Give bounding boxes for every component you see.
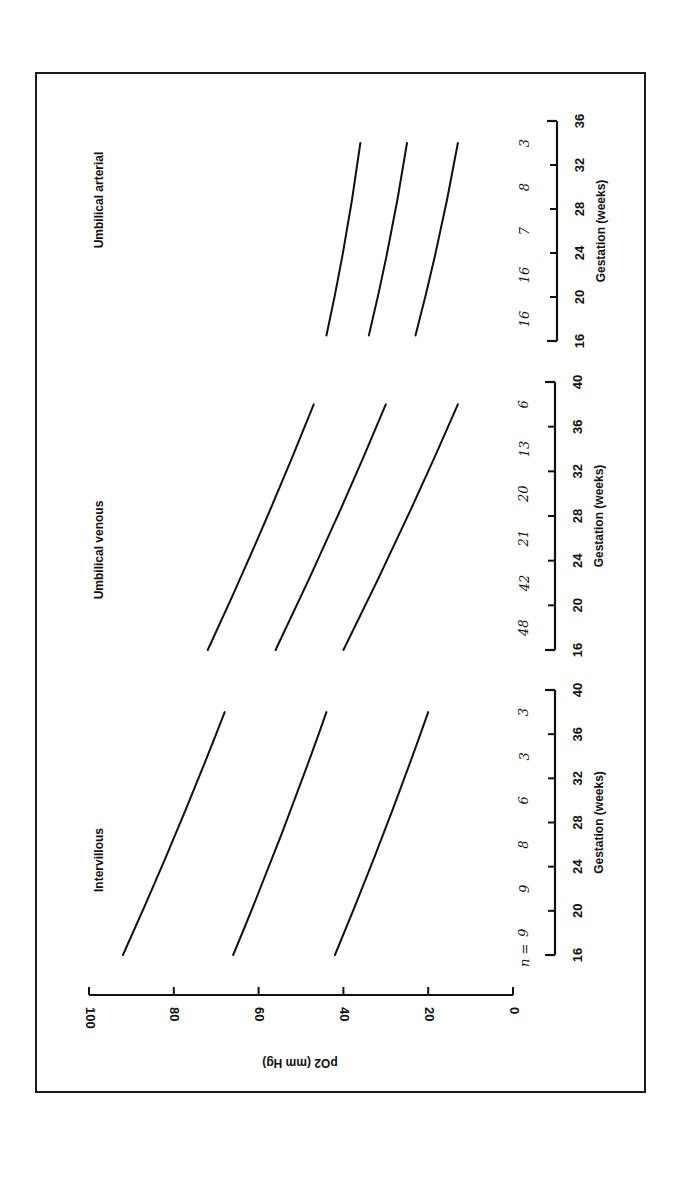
po2-tick-label: 0 — [507, 1007, 522, 1014]
gestation-tick-label: 24 — [570, 859, 585, 874]
sample-count-label: 21 — [517, 530, 532, 548]
po2-tick-label: 100 — [83, 1007, 98, 1029]
gestation-tick-label: 20 — [570, 904, 585, 918]
sample-count-label: 8 — [517, 183, 532, 191]
curve-upper — [208, 404, 314, 650]
sample-count-label: 16 — [517, 311, 532, 328]
gestation-axis-title: Gestation (weeks) — [592, 465, 606, 568]
sample-count-label: 20 — [517, 485, 532, 503]
gestation-tick-label: 40 — [570, 375, 585, 389]
sample-count-label: 13 — [517, 441, 532, 458]
po2-gestation-chart: 020406080100pO2 (mm Hg)16202428323640Ges… — [0, 0, 683, 1182]
sample-count-label: 9 — [517, 929, 532, 937]
gestation-tick-label: 20 — [572, 290, 587, 304]
gestation-tick-label: 32 — [570, 771, 585, 785]
curve-mean — [276, 404, 386, 650]
sample-count-prefix: n = — [517, 944, 532, 967]
gestation-axis-title: Gestation (weeks) — [592, 771, 606, 874]
sample-count-label: 8 — [517, 840, 532, 848]
gestation-tick-label: 24 — [570, 553, 585, 568]
po2-tick-label: 80 — [167, 1007, 182, 1021]
sample-count-label: 6 — [517, 796, 532, 804]
panel-title: Umbilical arterial — [92, 152, 106, 249]
po2-tick-label: 40 — [337, 1007, 352, 1021]
curve-lower — [343, 404, 457, 650]
sample-count-label: 7 — [517, 226, 532, 235]
gestation-tick-label: 16 — [570, 948, 585, 962]
sample-count-label: 3 — [517, 752, 532, 760]
curve-lower — [415, 143, 457, 336]
gestation-tick-label: 28 — [572, 202, 587, 216]
panel-title: Umbilical venous — [92, 500, 106, 599]
gestation-tick-label: 36 — [570, 727, 585, 741]
sample-count-label: 3 — [517, 139, 532, 147]
gestation-tick-label: 32 — [572, 158, 587, 172]
sample-count-label: 16 — [517, 267, 532, 284]
po2-tick-label: 60 — [252, 1007, 267, 1021]
gestation-tick-label: 36 — [570, 419, 585, 433]
curve-upper — [123, 712, 225, 955]
gestation-tick-label: 36 — [572, 114, 587, 128]
panel-title: Intervillous — [92, 828, 106, 892]
sample-count-label: 3 — [517, 708, 532, 716]
gestation-tick-label: 40 — [570, 683, 585, 697]
curve-lower — [335, 712, 428, 955]
curve-upper — [326, 143, 360, 336]
gestation-tick-label: 28 — [570, 815, 585, 829]
gestation-tick-label: 32 — [570, 464, 585, 478]
gestation-tick-label: 16 — [570, 643, 585, 657]
plot-area: 020406080100pO2 (mm Hg)16202428323640Ges… — [83, 114, 609, 1070]
po2-tick-label: 20 — [422, 1007, 437, 1021]
curve-mean — [369, 143, 407, 336]
gestation-tick-label: 20 — [570, 598, 585, 612]
sample-count-label: 42 — [517, 575, 532, 593]
gestation-tick-label: 16 — [572, 334, 587, 348]
gestation-tick-label: 24 — [572, 245, 587, 260]
gestation-axis-title: Gestation (weeks) — [594, 180, 608, 283]
sample-count-label: 6 — [517, 400, 532, 408]
sample-count-label: 9 — [517, 885, 532, 893]
curve-mean — [233, 712, 326, 955]
sample-count-label: 48 — [517, 619, 532, 637]
gestation-tick-label: 28 — [570, 509, 585, 523]
po2-axis-title: pO2 (mm Hg) — [262, 1056, 337, 1070]
